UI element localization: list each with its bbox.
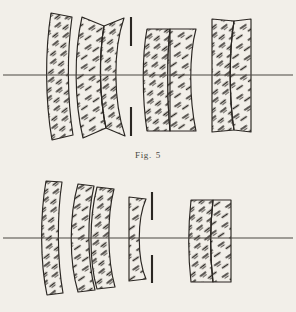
lens-element-5 [189,200,213,282]
lens-element-4 [143,29,170,131]
lens-element-6 [211,200,231,282]
figure-caption-label: Fig. [135,150,152,160]
figure-page: Fig.5 [0,0,296,312]
figure-caption: Fig.5 [0,150,296,160]
figure-caption-number: 5 [156,150,161,160]
